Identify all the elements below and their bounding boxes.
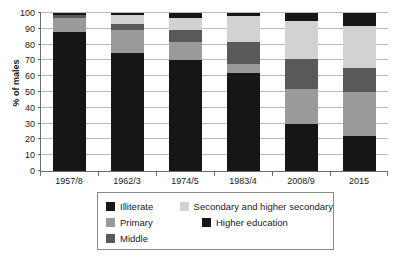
- legend-item[interactable]: Illiterate: [106, 201, 180, 212]
- bar-column[interactable]: [285, 13, 318, 171]
- bar-segment[interactable]: [227, 73, 260, 171]
- x-tick-label: 1983/4: [227, 176, 260, 186]
- x-axis-labels: 1957/81962/31974/51983/42008/92015: [40, 176, 388, 186]
- bar-column[interactable]: [53, 13, 86, 171]
- y-tick-label: 70: [25, 55, 35, 65]
- bar-segment[interactable]: [169, 18, 202, 31]
- plot-area: 0102030405060708090100: [40, 13, 388, 172]
- bar-group: [41, 13, 388, 171]
- bar-segment[interactable]: [343, 68, 376, 92]
- bar-segment[interactable]: [111, 53, 144, 172]
- legend-label: Primary: [120, 217, 153, 228]
- bar-segment[interactable]: [343, 92, 376, 136]
- legend-row: PrimaryHigher education: [106, 214, 333, 230]
- legend-item[interactable]: Middle: [106, 233, 202, 244]
- bar-segment[interactable]: [285, 13, 318, 21]
- legend-row: IlliterateSecondary and higher secondary: [106, 198, 333, 214]
- bar-segment[interactable]: [169, 30, 202, 42]
- y-tick-label: 0: [30, 166, 35, 176]
- x-tick-label: 1962/3: [111, 176, 144, 186]
- y-tick-label: 40: [25, 103, 35, 113]
- x-tick-label: 1957/8: [53, 176, 86, 186]
- bar-segment[interactable]: [169, 60, 202, 171]
- bar-column[interactable]: [111, 13, 144, 171]
- legend-swatch-icon: [106, 234, 115, 243]
- legend-item[interactable]: Secondary and higher secondary: [180, 201, 333, 212]
- bar-column[interactable]: [169, 13, 202, 171]
- bar-segment[interactable]: [285, 124, 318, 171]
- x-tick-label: 2008/9: [285, 176, 318, 186]
- x-tick-label: 1974/5: [169, 176, 202, 186]
- bar-segment[interactable]: [53, 18, 86, 32]
- y-tick-label: 90: [25, 24, 35, 34]
- y-tick-label: 20: [25, 134, 35, 144]
- bar-segment[interactable]: [227, 16, 260, 42]
- bar-segment[interactable]: [111, 30, 144, 52]
- chart-figure: % of males 0102030405060708090100 1957/8…: [0, 0, 411, 257]
- bar-column[interactable]: [343, 13, 376, 171]
- plot-frame: 0102030405060708090100: [40, 13, 388, 172]
- legend-item[interactable]: Higher education: [202, 217, 288, 228]
- y-tick-label: 10: [25, 150, 35, 160]
- bar-segment[interactable]: [285, 59, 318, 89]
- bar-segment[interactable]: [169, 42, 202, 59]
- bar-segment[interactable]: [343, 13, 376, 26]
- legend-label: Secondary and higher secondary: [194, 201, 333, 212]
- legend-swatch-icon: [202, 218, 211, 227]
- legend-item[interactable]: Primary: [106, 217, 202, 228]
- y-axis-title: % of males: [11, 36, 21, 130]
- legend-label: Higher education: [216, 217, 288, 228]
- y-tick-label: 80: [25, 40, 35, 50]
- legend-swatch-icon: [180, 202, 189, 211]
- bar-segment[interactable]: [285, 21, 318, 59]
- chart-legend: IlliterateSecondary and higher secondary…: [97, 192, 334, 250]
- y-tick-label: 30: [25, 119, 35, 129]
- bar-segment[interactable]: [343, 26, 376, 69]
- bar-segment[interactable]: [227, 42, 260, 63]
- legend-label: Illiterate: [120, 201, 153, 212]
- bar-segment[interactable]: [227, 64, 260, 73]
- y-tick-label: 50: [25, 87, 35, 97]
- bar-column[interactable]: [227, 13, 260, 171]
- legend-swatch-icon: [106, 218, 115, 227]
- bar-segment[interactable]: [111, 15, 144, 24]
- bar-segment[interactable]: [53, 32, 86, 171]
- x-tick-label: 2015: [343, 176, 376, 186]
- legend-swatch-icon: [106, 202, 115, 211]
- legend-label: Middle: [120, 233, 148, 244]
- bar-segment[interactable]: [285, 89, 318, 124]
- bar-segment[interactable]: [343, 136, 376, 171]
- y-tick-label: 100: [20, 8, 35, 18]
- y-tick-label: 60: [25, 71, 35, 81]
- legend-row: Middle: [106, 230, 333, 246]
